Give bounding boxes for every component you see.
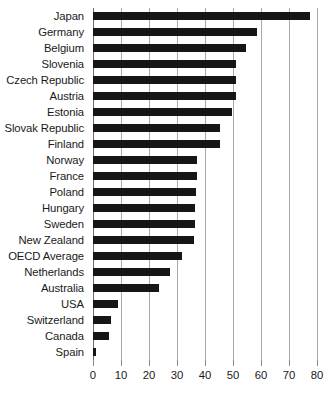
bar [93, 44, 246, 52]
bar [93, 76, 236, 84]
category-label: Austria [0, 88, 84, 104]
category-label: Estonia [0, 104, 84, 120]
bar [93, 252, 182, 260]
x-tick-mark [177, 360, 178, 366]
x-axis: 01020304050607080 [93, 360, 317, 394]
bar [93, 284, 159, 292]
bar [93, 236, 194, 244]
bar [93, 300, 118, 308]
category-label: Slovenia [0, 56, 84, 72]
x-tick-label: 80 [297, 369, 332, 381]
category-label: Germany [0, 24, 84, 40]
category-label: Netherlands [0, 264, 84, 280]
bars-container [93, 8, 317, 360]
x-tick-mark [233, 360, 234, 366]
category-label: Czech Republic [0, 72, 84, 88]
bar [93, 188, 196, 196]
bar [93, 108, 232, 116]
x-tick-mark [317, 360, 318, 366]
x-tick-mark [261, 360, 262, 366]
bar [93, 28, 257, 36]
category-label: Spain [0, 344, 84, 360]
category-label: OECD Average [0, 248, 84, 264]
plot-area [93, 8, 317, 360]
x-tick-mark [93, 360, 94, 366]
bar [93, 60, 236, 68]
category-label: Australia [0, 280, 84, 296]
x-tick-mark [289, 360, 290, 366]
category-label: Japan [0, 8, 84, 24]
category-label: Slovak Republic [0, 120, 84, 136]
category-axis-labels: JapanGermanyBelgiumSloveniaCzech Republi… [0, 8, 88, 360]
category-label: Canada [0, 328, 84, 344]
category-label: Finland [0, 136, 84, 152]
x-tick-mark [121, 360, 122, 366]
category-label: Sweden [0, 216, 84, 232]
bar [93, 140, 220, 148]
category-label: Switzerland [0, 312, 84, 328]
bar [93, 332, 109, 340]
bar [93, 124, 220, 132]
category-label: Belgium [0, 40, 84, 56]
bar [93, 204, 195, 212]
bar [93, 268, 170, 276]
category-label: Poland [0, 184, 84, 200]
bar [93, 316, 111, 324]
x-tick-mark [205, 360, 206, 366]
gridline [317, 8, 318, 360]
bar [93, 156, 197, 164]
bar [93, 12, 310, 20]
category-label: Hungary [0, 200, 84, 216]
category-label: France [0, 168, 84, 184]
category-label: Norway [0, 152, 84, 168]
bar [93, 92, 236, 100]
bar [93, 172, 197, 180]
bar [93, 220, 195, 228]
x-tick-mark [149, 360, 150, 366]
bar-chart: JapanGermanyBelgiumSloveniaCzech Republi… [0, 0, 332, 394]
category-label: USA [0, 296, 84, 312]
bar [93, 348, 96, 356]
category-label: New Zealand [0, 232, 84, 248]
